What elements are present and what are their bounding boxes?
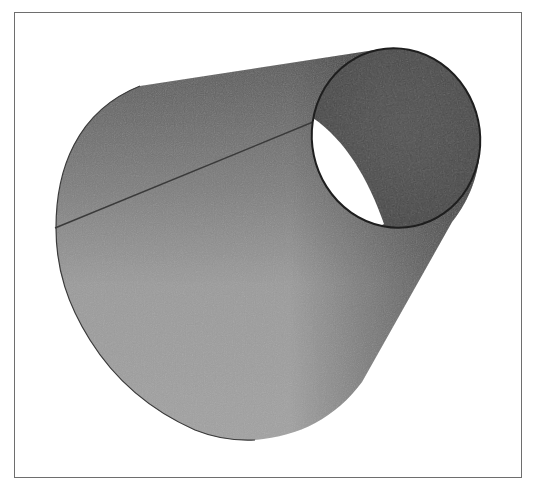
frustum-scene bbox=[0, 0, 533, 488]
